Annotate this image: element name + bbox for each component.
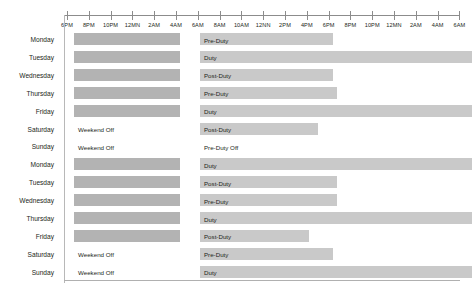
schedule-row[interactable]: WednesdayPre-Duty bbox=[0, 192, 464, 210]
rest-period-bar[interactable] bbox=[74, 33, 181, 45]
row-day-label: Thursday bbox=[0, 214, 54, 223]
axis-tick bbox=[329, 11, 330, 20]
duty-period-label: Post-Duty bbox=[204, 125, 231, 134]
duty-period-label: Pre-Duty bbox=[204, 197, 228, 206]
axis-tick-label: 10PM bbox=[365, 21, 380, 29]
weekend-off-label: Weekend Off bbox=[78, 143, 114, 152]
axis-tick bbox=[372, 11, 373, 20]
axis-tick-label: 4AM bbox=[432, 21, 444, 29]
axis-tick-label: 2AM bbox=[148, 21, 160, 29]
axis-tick-label: 2AM bbox=[410, 21, 422, 29]
schedule-row[interactable]: MondayDuty bbox=[0, 156, 464, 174]
row-day-label: Sunday bbox=[0, 142, 54, 151]
row-day-label: Monday bbox=[0, 35, 54, 44]
schedule-row[interactable]: SundayWeekend OffDuty bbox=[0, 264, 464, 282]
rest-period-bar[interactable] bbox=[74, 194, 181, 206]
axis-tick-label: 8PM bbox=[83, 21, 95, 29]
axis-tick-label: 6AM bbox=[453, 21, 465, 29]
axis-tick bbox=[307, 11, 308, 20]
axis-tick-label: 6PM bbox=[61, 21, 73, 29]
rest-period-bar[interactable] bbox=[74, 69, 181, 81]
row-day-label: Wednesday bbox=[0, 71, 54, 80]
row-day-label: Friday bbox=[0, 107, 54, 116]
duty-period-label: Duty bbox=[204, 161, 217, 170]
rest-period-bar[interactable] bbox=[74, 230, 181, 242]
axis-tick bbox=[176, 11, 177, 20]
axis-tick bbox=[220, 11, 221, 20]
axis-tick-label: 4PM bbox=[301, 21, 313, 29]
rest-period-bar[interactable] bbox=[74, 105, 181, 117]
axis-tick-label: 12NN bbox=[256, 21, 271, 29]
axis-tick-label: 8AM bbox=[214, 21, 226, 29]
duty-period-label: Pre-Duty bbox=[204, 250, 228, 259]
axis-tick-label: 12MN bbox=[125, 21, 140, 29]
axis-tick bbox=[111, 11, 112, 20]
schedule-row[interactable]: ThursdayPre-Duty bbox=[0, 85, 464, 103]
row-day-label: Saturday bbox=[0, 125, 54, 134]
axis-tick bbox=[154, 11, 155, 20]
duty-period-label: Pre-Duty bbox=[204, 89, 228, 98]
axis-tick bbox=[438, 11, 439, 20]
axis-tick bbox=[132, 11, 133, 20]
schedule-row[interactable]: MondayPre-Duty bbox=[0, 31, 464, 49]
row-day-label: Wednesday bbox=[0, 196, 54, 205]
chart-bottom-rule bbox=[64, 280, 460, 281]
weekend-off-label: Weekend Off bbox=[78, 268, 114, 277]
axis-tick bbox=[241, 11, 242, 20]
duty-period-bar[interactable] bbox=[200, 105, 472, 117]
duty-period-bar[interactable] bbox=[200, 158, 472, 170]
row-day-label: Thursday bbox=[0, 89, 54, 98]
axis-tick-label: 12MN bbox=[386, 21, 401, 29]
duty-period-label: Duty bbox=[204, 107, 217, 116]
axis-line bbox=[64, 15, 460, 16]
axis-tick bbox=[350, 11, 351, 20]
duty-off-label: Pre-Duty Off bbox=[204, 143, 238, 152]
duty-period-label: Pre-Duty bbox=[204, 36, 228, 45]
row-day-label: Friday bbox=[0, 232, 54, 241]
row-day-label: Monday bbox=[0, 160, 54, 169]
schedule-row[interactable]: FridayDuty bbox=[0, 103, 464, 121]
axis-tick-label: 8PM bbox=[344, 21, 356, 29]
axis-tick bbox=[89, 11, 90, 20]
schedule-row[interactable]: TuesdayPost-Duty bbox=[0, 174, 464, 192]
row-day-label: Sunday bbox=[0, 268, 54, 277]
axis-tick bbox=[416, 11, 417, 20]
duty-period-bar[interactable] bbox=[200, 266, 472, 278]
rest-period-bar[interactable] bbox=[74, 51, 181, 63]
schedule-row[interactable]: ThursdayDuty bbox=[0, 210, 464, 228]
axis-tick bbox=[459, 11, 460, 20]
weekend-off-label: Weekend Off bbox=[78, 125, 114, 134]
rest-period-bar[interactable] bbox=[74, 176, 181, 188]
schedule-row[interactable]: SundayWeekend OffPre-Duty Off bbox=[0, 138, 464, 156]
axis-tick-label: 10PM bbox=[103, 21, 118, 29]
row-day-label: Tuesday bbox=[0, 53, 54, 62]
schedule-row[interactable]: FridayPost-Duty bbox=[0, 228, 464, 246]
schedule-row[interactable]: TuesdayDuty bbox=[0, 49, 464, 67]
axis-tick-label: 2PM bbox=[279, 21, 291, 29]
axis-tick bbox=[67, 11, 68, 20]
duty-period-label: Duty bbox=[204, 215, 217, 224]
axis-tick bbox=[285, 11, 286, 20]
schedule-row[interactable]: WednesdayPost-Duty bbox=[0, 67, 464, 85]
duty-period-label: Post-Duty bbox=[204, 232, 231, 241]
axis-tick bbox=[198, 11, 199, 20]
schedule-row[interactable]: SaturdayWeekend OffPost-Duty bbox=[0, 121, 464, 139]
duty-period-label: Post-Duty bbox=[204, 179, 231, 188]
duty-period-label: Duty bbox=[204, 268, 217, 277]
duty-period-bar[interactable] bbox=[200, 212, 472, 224]
axis-tick bbox=[263, 11, 264, 20]
row-day-label: Tuesday bbox=[0, 178, 54, 187]
axis-tick-label: 4AM bbox=[170, 21, 182, 29]
axis-tick-label: 6PM bbox=[323, 21, 335, 29]
axis-tick-label: 10AM bbox=[234, 21, 249, 29]
rest-period-bar[interactable] bbox=[74, 212, 181, 224]
duty-period-bar[interactable] bbox=[200, 51, 472, 63]
duty-period-label: Duty bbox=[204, 53, 217, 62]
duty-period-label: Post-Duty bbox=[204, 71, 231, 80]
rest-period-bar[interactable] bbox=[74, 87, 181, 99]
axis-tick-label: 6AM bbox=[192, 21, 204, 29]
rest-period-bar[interactable] bbox=[74, 158, 181, 170]
schedule-row[interactable]: SaturdayWeekend OffPre-Duty bbox=[0, 246, 464, 264]
axis-tick bbox=[394, 11, 395, 20]
